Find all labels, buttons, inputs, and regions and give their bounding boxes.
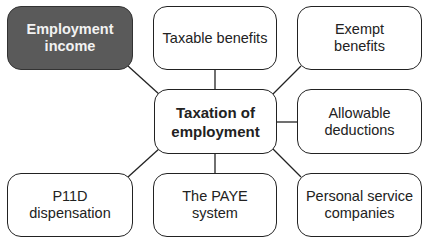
node-exempt-benefits: Exempt benefits xyxy=(297,6,422,70)
node-label: Taxable benefits xyxy=(163,30,268,47)
node-label: Employment income xyxy=(26,21,113,55)
node-label: Personal service companies xyxy=(306,188,413,222)
edge-exempt-benefits xyxy=(272,66,301,95)
node-allowable-deductions: Allowable deductions xyxy=(297,89,422,154)
edge-p11d-dispensation xyxy=(128,148,160,177)
node-taxation-of-employment: Taxation of employment xyxy=(154,89,277,154)
edge-personal-service-companies xyxy=(272,148,301,177)
node-label: The PAYE system xyxy=(160,188,270,222)
node-paye-system: The PAYE system xyxy=(153,173,277,237)
node-personal-service-companies: Personal service companies xyxy=(297,173,422,237)
edge-employment-income xyxy=(128,66,160,95)
node-label: Allowable deductions xyxy=(324,105,394,139)
node-label: Exempt benefits xyxy=(334,21,385,55)
center-label: Taxation of employment xyxy=(171,103,259,141)
node-taxable-benefits: Taxable benefits xyxy=(153,6,277,70)
node-employment-income: Employment income xyxy=(7,6,133,70)
node-label: P11D dispensation xyxy=(29,188,110,222)
node-p11d-dispensation: P11D dispensation xyxy=(7,173,133,237)
